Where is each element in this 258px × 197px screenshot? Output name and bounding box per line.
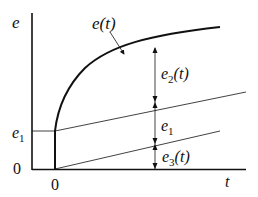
arrow-e3-bottom (153, 163, 158, 169)
x-axis-label: t (225, 173, 230, 190)
dim-label-e2: e2(t) (161, 65, 189, 85)
line-e1-plus-e3 (55, 92, 246, 131)
dim-label-e1: e1 (161, 117, 174, 137)
arrow-e1-bottom (153, 138, 158, 144)
diagram-canvas: e t e1 0 0 e(t) e2(t) e1 e3(t) (0, 0, 258, 197)
y-tick-e1: e1 (12, 124, 25, 144)
curve-label: e(t) (92, 14, 116, 33)
arrow-e1-top (153, 102, 158, 108)
arrow-e2-bottom (153, 96, 158, 102)
y-axis-label: e (12, 13, 20, 32)
x-origin-label: 0 (51, 176, 59, 193)
curve-e-t (55, 27, 220, 131)
dim-label-e3: e3(t) (162, 148, 190, 168)
y-origin-label: 0 (13, 160, 21, 177)
line-e3-t (55, 131, 220, 169)
arrow-e3-top (153, 144, 158, 150)
arrow-e2-top (153, 47, 158, 53)
